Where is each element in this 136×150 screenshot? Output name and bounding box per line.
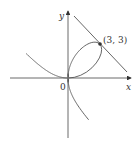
folium-loop [68, 42, 102, 78]
origin-label: 0 [60, 82, 66, 92]
y-axis-label: y [58, 11, 65, 21]
folium-plot: (3, 3) y x 0 [0, 0, 136, 150]
folium-lower-branch [68, 79, 89, 120]
point-label: (3, 3) [103, 35, 127, 45]
folium-left-branch [26, 53, 68, 78]
x-axis-label: x [126, 82, 131, 92]
tangent-point [98, 42, 102, 46]
